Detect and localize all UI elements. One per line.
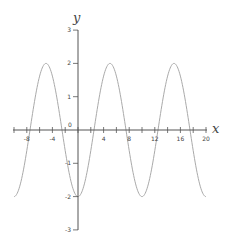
y-tick-label: -2 <box>65 193 71 200</box>
x-tick-label: 20 <box>202 135 210 142</box>
y-tick-label: -3 <box>65 226 71 233</box>
x-tick-label: -4 <box>49 135 55 142</box>
origin-label: 0 <box>68 121 72 128</box>
y-axis-label: y <box>72 10 81 25</box>
x-axis-label: x <box>212 121 220 136</box>
y-tick-label: 2 <box>67 59 71 66</box>
x-tick-label: -8 <box>24 135 30 142</box>
x-tick-label: 12 <box>151 135 159 142</box>
chart: -8-448121620-3-2-1123 x y 0 <box>0 0 231 245</box>
x-tick-label: 4 <box>102 135 106 142</box>
x-tick-label: 16 <box>177 135 185 142</box>
y-tick-label: 3 <box>67 26 71 33</box>
axes <box>13 30 207 230</box>
y-tick-label: -1 <box>65 159 71 166</box>
x-tick-label: 8 <box>127 135 131 142</box>
y-tick-label: 1 <box>67 93 71 100</box>
